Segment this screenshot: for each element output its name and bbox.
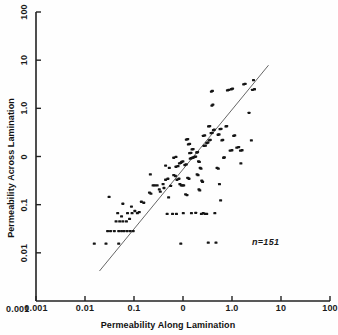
data-point	[221, 139, 224, 141]
y-axis-title: Permeability Across Lamination	[6, 98, 16, 238]
data-point	[230, 149, 233, 151]
data-point	[192, 148, 195, 150]
data-point	[182, 212, 185, 214]
data-point	[132, 230, 135, 232]
data-point	[121, 220, 124, 222]
data-point	[174, 175, 177, 177]
data-point	[186, 138, 189, 140]
data-point	[198, 161, 201, 163]
data-point	[211, 132, 214, 134]
x-tick-label: 0	[180, 303, 185, 313]
axis-lines	[36, 12, 330, 301]
data-point	[201, 181, 204, 183]
data-point	[149, 192, 152, 194]
data-point	[159, 190, 162, 192]
data-point	[167, 196, 170, 198]
data-point	[239, 162, 242, 164]
y-tick-label: 100	[19, 4, 29, 20]
data-point	[125, 220, 128, 222]
data-point	[203, 134, 206, 136]
y-tick-label: 10	[19, 55, 29, 65]
data-point	[217, 167, 220, 169]
data-point	[219, 199, 222, 201]
data-point	[182, 184, 185, 186]
data-point	[116, 212, 119, 214]
data-point	[179, 243, 182, 245]
data-point	[171, 213, 174, 215]
data-point	[158, 188, 161, 190]
data-point	[138, 211, 141, 213]
data-point	[168, 167, 171, 169]
reference-line	[99, 65, 268, 271]
y-tick-label: 1.0	[19, 102, 29, 115]
data-point	[244, 83, 247, 85]
data-point	[164, 164, 167, 166]
data-points-group	[93, 79, 256, 245]
data-point	[190, 212, 193, 214]
data-point	[231, 88, 234, 90]
data-point	[207, 242, 210, 244]
data-point	[223, 156, 226, 158]
data-point	[194, 212, 197, 214]
data-point	[142, 202, 145, 204]
data-point	[128, 218, 131, 220]
data-point	[149, 173, 152, 175]
data-point	[218, 183, 221, 185]
data-point	[241, 149, 244, 151]
data-point	[188, 143, 191, 145]
data-point	[213, 212, 216, 214]
data-point	[188, 178, 191, 180]
data-point	[233, 134, 236, 136]
data-point	[166, 213, 169, 215]
data-point	[209, 139, 212, 141]
data-point	[253, 88, 256, 90]
data-point	[197, 174, 200, 176]
data-point	[113, 230, 116, 232]
data-point	[211, 103, 214, 105]
data-point	[177, 178, 180, 180]
data-point	[200, 167, 203, 169]
data-point	[123, 230, 126, 232]
data-point	[126, 212, 129, 214]
data-point	[194, 155, 197, 157]
x-tick-label: 100	[322, 303, 338, 313]
data-point	[156, 184, 159, 186]
y-tick-label: 0.001	[6, 304, 30, 314]
data-point	[219, 128, 222, 130]
data-point	[118, 220, 121, 222]
data-point	[93, 243, 96, 245]
data-point	[104, 243, 107, 245]
data-point	[214, 242, 217, 244]
data-point	[115, 220, 118, 222]
data-point	[227, 89, 230, 91]
data-point	[133, 210, 136, 212]
data-point	[129, 230, 132, 232]
data-point	[189, 152, 192, 154]
data-point	[130, 205, 133, 207]
data-point	[204, 145, 207, 147]
data-point	[200, 213, 203, 215]
data-point	[106, 230, 109, 232]
data-point	[120, 230, 123, 232]
data-point	[186, 194, 189, 196]
data-point	[126, 230, 129, 232]
one-to-one-reference-line	[99, 65, 268, 271]
data-point	[252, 79, 255, 81]
sample-size-annotation: n=151	[252, 237, 279, 247]
data-point	[174, 156, 177, 158]
data-point	[162, 187, 165, 189]
data-point	[181, 160, 184, 162]
data-point	[198, 189, 201, 191]
data-point	[177, 165, 180, 167]
data-point	[250, 139, 253, 141]
data-point	[117, 230, 120, 232]
data-point	[211, 90, 214, 92]
data-point	[175, 213, 178, 215]
data-point	[117, 243, 120, 245]
data-point	[162, 183, 165, 185]
data-point	[169, 185, 172, 187]
data-point	[206, 141, 209, 143]
data-point	[218, 133, 221, 135]
